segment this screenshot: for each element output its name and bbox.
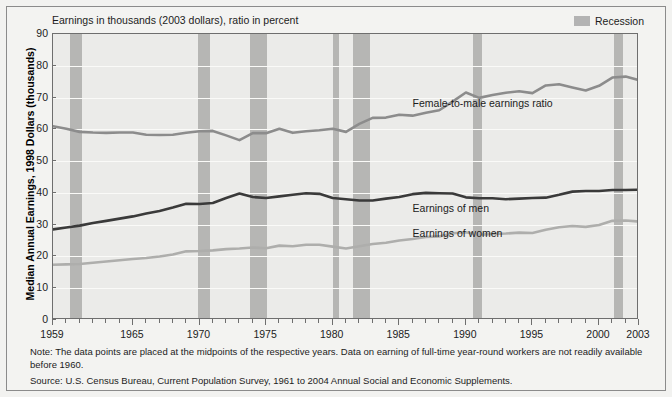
x-tickmark — [638, 319, 639, 325]
x-tickmark — [332, 319, 333, 325]
x-tickmark — [52, 319, 53, 325]
x-tickmark — [145, 319, 146, 323]
x-tick-label: 1959 — [40, 328, 63, 340]
chart-subtitle: Earnings in thousands (2003 dollars), ra… — [52, 14, 298, 26]
x-tick-label: 1990 — [453, 328, 476, 340]
series-line — [53, 221, 638, 265]
x-tickmark — [132, 319, 133, 325]
x-tickmark — [65, 319, 66, 323]
x-tickmark — [545, 319, 546, 323]
y-tick-label: 40 — [14, 186, 48, 198]
x-tickmark — [278, 319, 279, 323]
y-tickmark — [52, 97, 56, 98]
source-text: Source: U.S. Census Bureau, Current Popu… — [30, 375, 650, 388]
y-tick-label: 70 — [14, 91, 48, 103]
x-tick-label: 1995 — [520, 328, 543, 340]
x-tickmark — [345, 319, 346, 323]
y-tick-label: 90 — [14, 27, 48, 39]
x-tickmark — [625, 319, 626, 323]
series-label-men: Earnings of men — [413, 202, 489, 214]
x-tickmark — [452, 319, 453, 323]
y-tick-label: 30 — [14, 218, 48, 230]
y-tick-label: 0 — [14, 313, 48, 325]
x-tickmark — [531, 319, 532, 325]
x-tick-label: 2000 — [586, 328, 609, 340]
x-tickmark — [465, 319, 466, 325]
y-tickmark — [52, 287, 56, 288]
x-tickmark — [119, 319, 120, 323]
x-tickmark — [79, 319, 80, 323]
x-tickmark — [159, 319, 160, 323]
y-tick-label: 20 — [14, 249, 48, 261]
x-tickmark — [518, 319, 519, 323]
y-tickmark — [52, 192, 56, 193]
x-tickmark — [492, 319, 493, 323]
x-tickmark — [105, 319, 106, 323]
y-axis-ticks: 0102030405060708090 — [10, 33, 48, 319]
x-tickmark — [505, 319, 506, 323]
x-tick-label: 1970 — [187, 328, 210, 340]
y-tickmark — [52, 128, 56, 129]
x-tick-label: 1975 — [253, 328, 276, 340]
y-tickmark — [52, 224, 56, 225]
series-line — [53, 190, 638, 230]
x-tickmark — [225, 319, 226, 323]
x-tickmark — [318, 319, 319, 323]
x-tickmark — [92, 319, 93, 323]
x-tickmark — [385, 319, 386, 323]
y-tick-label: 10 — [14, 281, 48, 293]
x-tickmark — [611, 319, 612, 323]
x-tickmark — [398, 319, 399, 325]
x-tickmark — [598, 319, 599, 325]
x-tickmark — [199, 319, 200, 325]
y-tickmark — [52, 65, 56, 66]
x-tickmark — [292, 319, 293, 323]
x-tickmark — [571, 319, 572, 323]
x-tickmark — [585, 319, 586, 323]
y-tick-label: 60 — [14, 122, 48, 134]
x-tickmark — [265, 319, 266, 325]
x-tickmark — [252, 319, 253, 323]
x-tickmark — [305, 319, 306, 323]
x-tickmark — [438, 319, 439, 323]
x-tick-label: 1980 — [320, 328, 343, 340]
x-axis-ticks: 1959196519701975198019851990199520002003 — [52, 319, 638, 345]
x-tickmark — [372, 319, 373, 323]
footnotes: Note: The data points are placed at the … — [30, 346, 650, 390]
legend: Recession — [574, 15, 644, 27]
plot-area: Female-to-male earnings ratioEarnings of… — [52, 33, 638, 319]
x-tickmark — [212, 319, 213, 323]
y-tickmark — [52, 160, 56, 161]
note-text: Note: The data points are placed at the … — [30, 346, 650, 372]
series-lines — [53, 34, 638, 319]
y-tickmark — [52, 255, 56, 256]
x-tick-label: 1965 — [120, 328, 143, 340]
series-label-ratio: Female-to-male earnings ratio — [413, 97, 553, 109]
y-tick-label: 50 — [14, 154, 48, 166]
x-tickmark — [558, 319, 559, 323]
x-tickmark — [412, 319, 413, 323]
x-tickmark — [358, 319, 359, 323]
x-tickmark — [425, 319, 426, 323]
x-tickmark — [172, 319, 173, 323]
recession-swatch-icon — [574, 16, 590, 26]
x-tickmark — [478, 319, 479, 323]
y-tick-label: 80 — [14, 59, 48, 71]
legend-label-recession: Recession — [595, 15, 644, 27]
y-tickmark — [52, 33, 56, 34]
chart-figure: Earnings in thousands (2003 dollars), ra… — [0, 0, 672, 397]
x-tickmark — [185, 319, 186, 323]
x-tick-label: 1985 — [387, 328, 410, 340]
x-tickmark — [238, 319, 239, 323]
x-tick-label: 2003 — [626, 328, 649, 340]
series-label-women: Earnings of women — [413, 227, 503, 239]
